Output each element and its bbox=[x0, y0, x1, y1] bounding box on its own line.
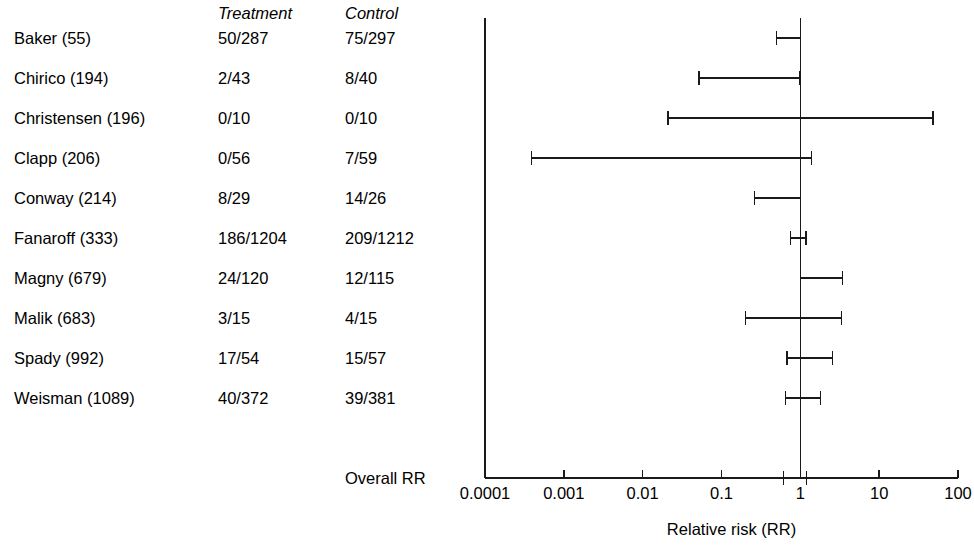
x-tick-label-0: 0.0001 bbox=[460, 485, 510, 502]
ci-whisker-1 bbox=[777, 31, 801, 45]
ci-whisker-overall bbox=[783, 471, 806, 485]
ci-whisker-9 bbox=[787, 351, 832, 365]
ci-whisker-2 bbox=[699, 71, 800, 85]
ci-whisker-6 bbox=[790, 231, 806, 245]
x-tick-label-4: 1 bbox=[796, 485, 805, 502]
ci-whisker-4 bbox=[532, 151, 812, 165]
ci-whisker-10 bbox=[786, 391, 821, 405]
x-axis-title: Relative risk (RR) bbox=[667, 521, 796, 538]
x-tick-label-1: 0.001 bbox=[543, 485, 584, 502]
ci-whisker-7 bbox=[800, 271, 842, 285]
ci-whisker-5 bbox=[754, 191, 800, 205]
forest-plot-figure: Treatment Control Baker (55)50/28775/297… bbox=[0, 0, 974, 547]
x-tick-label-2: 0.01 bbox=[627, 485, 659, 502]
x-tick-label-3: 0.1 bbox=[710, 485, 733, 502]
forest-plot-canvas bbox=[0, 0, 974, 547]
x-tick-label-6: 100 bbox=[944, 485, 972, 502]
ci-whisker-8 bbox=[745, 311, 841, 325]
plot-panel: 0.00010.0010.010.1110100 Relative risk (… bbox=[0, 0, 974, 547]
x-tick-label-5: 10 bbox=[870, 485, 888, 502]
